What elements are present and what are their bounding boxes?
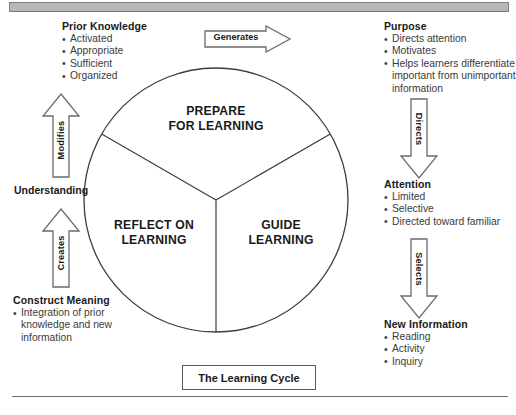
block-construct-meaning-title: Construct Meaning	[13, 294, 125, 306]
caption-box: The Learning Cycle	[182, 365, 316, 390]
sector-label-prepare: PREPARE FOR LEARNING	[126, 104, 306, 134]
arrow-modifies: Modifies	[41, 93, 81, 178]
block-new-information: New Information Reading Activity Inquiry	[384, 318, 504, 368]
arrow-generates-label: Generates	[208, 32, 264, 42]
arrow-directs: Directs	[399, 98, 439, 180]
list-item: Inquiry	[384, 356, 504, 368]
list-item: Motivates	[384, 45, 516, 57]
sector-label-guide: GUIDE LEARNING	[226, 218, 336, 248]
list-item: Activity	[384, 343, 504, 355]
block-attention: Attention Limited Selective Directed tow…	[384, 178, 502, 228]
list-item: Integration of prior knowledge and new i…	[13, 307, 125, 344]
sector-reflect-line2: LEARNING	[96, 233, 212, 248]
caption-text: The Learning Cycle	[198, 372, 299, 384]
arrow-selects-label: Selects	[414, 243, 424, 295]
list-item: Organized	[62, 70, 182, 82]
arrow-directs-label: Directs	[414, 103, 424, 155]
arrow-generates: Generates	[204, 25, 292, 53]
sector-prepare-line1: PREPARE	[126, 104, 306, 119]
diagram-canvas: PREPARE FOR LEARNING GUIDE LEARNING REFL…	[0, 0, 516, 415]
list-item: Helps learners differentiate important f…	[384, 58, 516, 95]
block-construct-meaning-list: Integration of prior knowledge and new i…	[13, 307, 125, 344]
block-prior-knowledge-title: Prior Knowledge	[62, 20, 182, 32]
list-item: Appropriate	[62, 45, 182, 57]
sector-guide-line2: LEARNING	[226, 233, 336, 248]
block-attention-list: Limited Selective Directed toward famili…	[384, 191, 502, 228]
sector-label-reflect: REFLECT ON LEARNING	[96, 218, 212, 248]
list-item: Reading	[384, 331, 504, 343]
list-item: Directed toward familiar	[384, 216, 502, 228]
arrow-creates-label: Creates	[56, 227, 66, 279]
bottom-divider-rule	[12, 396, 508, 397]
sector-guide-line1: GUIDE	[226, 218, 336, 233]
arrow-modifies-label: Modifies	[56, 113, 66, 167]
list-item: Sufficient	[62, 58, 182, 70]
list-item: Directs attention	[384, 33, 516, 45]
label-understanding: Understanding	[14, 184, 88, 196]
sector-prepare-line2: FOR LEARNING	[126, 119, 306, 134]
list-item: Selective	[384, 203, 502, 215]
list-item: Limited	[384, 191, 502, 203]
block-prior-knowledge: Prior Knowledge Activated Appropriate Su…	[62, 20, 182, 83]
list-item: Activated	[62, 33, 182, 45]
block-prior-knowledge-list: Activated Appropriate Sufficient Organiz…	[62, 33, 182, 83]
block-new-information-list: Reading Activity Inquiry	[384, 331, 504, 368]
block-construct-meaning: Construct Meaning Integration of prior k…	[13, 294, 125, 344]
block-purpose-title: Purpose	[384, 20, 516, 32]
arrow-selects: Selects	[399, 238, 439, 320]
block-purpose-list: Directs attention Motivates Helps learne…	[384, 33, 516, 95]
top-header-bar	[9, 2, 509, 12]
sector-reflect-line1: REFLECT ON	[96, 218, 212, 233]
block-purpose: Purpose Directs attention Motivates Help…	[384, 20, 516, 95]
arrow-creates: Creates	[41, 208, 81, 288]
